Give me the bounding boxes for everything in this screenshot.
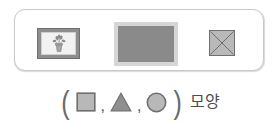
close-paren: ) xyxy=(171,86,183,117)
square-shape-icon xyxy=(74,92,98,112)
shape-examples-panel xyxy=(14,9,264,71)
separator-1: , xyxy=(100,98,106,114)
diagonal-cross-icon xyxy=(210,31,234,55)
circle-shape-icon xyxy=(144,92,169,113)
gray-rectangle-item[interactable] xyxy=(114,22,178,66)
open-paren: ( xyxy=(59,86,71,117)
caption-word: 모양 xyxy=(186,94,220,110)
picture-mat xyxy=(41,32,76,55)
caption: ( , , ) 모양 xyxy=(0,84,279,120)
crossed-square-item[interactable] xyxy=(209,30,235,56)
framed-picture-item[interactable] xyxy=(37,28,80,59)
triangle-shape-icon xyxy=(108,92,134,112)
separator-2: , xyxy=(136,98,142,114)
potted-plant-icon xyxy=(51,34,67,54)
